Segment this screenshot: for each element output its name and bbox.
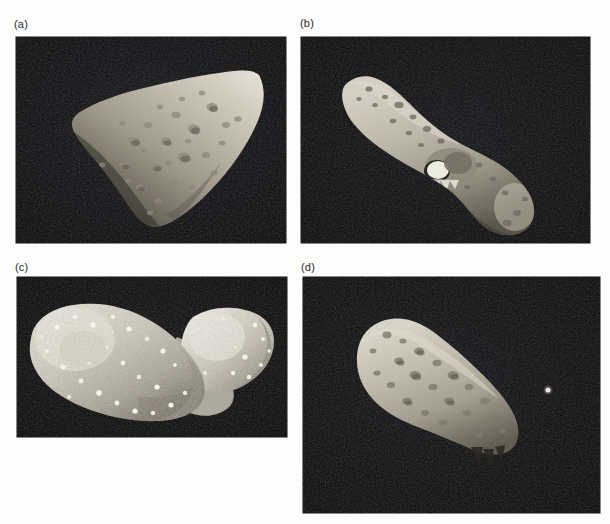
eros-illustration — [301, 37, 590, 243]
panel-image-b-asteroid-eros — [301, 37, 590, 243]
panel-label-b: (b) — [300, 17, 314, 29]
panel-label-c: (c) — [15, 261, 28, 273]
ida-illustration — [303, 277, 600, 513]
moon-dactyl-glow — [543, 385, 552, 394]
panel-image-d-asteroid-ida — [303, 277, 600, 513]
figure-root: (a) — [0, 0, 610, 524]
panel-label-a: (a) — [14, 18, 28, 30]
panel-image-a-asteroid-gaspra — [16, 37, 286, 243]
gaspra-illustration — [16, 37, 286, 243]
itokawa-illustration — [17, 277, 287, 437]
panel-image-c-asteroid-itokawa — [17, 277, 287, 437]
panel-label-d: (d) — [301, 261, 315, 273]
